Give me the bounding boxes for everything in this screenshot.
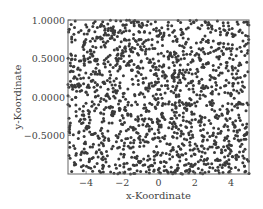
data-point: [128, 29, 131, 32]
data-point: [219, 63, 222, 66]
data-point: [167, 21, 170, 24]
data-point: [117, 57, 120, 60]
data-point: [158, 137, 161, 140]
data-point: [165, 152, 168, 155]
data-point: [130, 104, 133, 107]
data-point: [189, 46, 192, 49]
data-point: [177, 145, 180, 148]
data-point: [108, 165, 111, 168]
data-point: [72, 133, 75, 136]
data-point: [163, 165, 166, 168]
y-tick-label: 1.0000: [32, 15, 65, 26]
data-point: [141, 24, 144, 27]
data-point: [158, 131, 161, 134]
data-point: [235, 54, 238, 57]
data-point: [79, 59, 82, 62]
data-point: [155, 93, 158, 96]
data-point: [162, 102, 165, 105]
data-point: [97, 137, 100, 140]
data-point: [125, 29, 128, 32]
data-point: [187, 38, 190, 41]
data-point: [107, 60, 110, 63]
data-point: [175, 87, 178, 90]
data-point: [222, 28, 225, 31]
x-tick-label: −2: [115, 177, 129, 188]
data-point: [124, 106, 127, 109]
data-point: [163, 160, 166, 163]
data-point: [228, 57, 231, 60]
data-point: [143, 96, 146, 99]
data-point: [142, 77, 145, 80]
data-point: [170, 117, 173, 120]
data-point: [159, 154, 162, 157]
data-point: [227, 166, 230, 169]
data-point: [191, 73, 194, 76]
data-point: [219, 159, 222, 162]
data-point: [120, 40, 123, 43]
data-point: [152, 65, 155, 68]
data-point: [173, 29, 176, 32]
data-point: [91, 133, 94, 136]
data-point: [133, 156, 136, 159]
data-point: [146, 20, 149, 23]
data-point: [148, 48, 151, 51]
data-point: [132, 33, 135, 36]
data-point: [182, 69, 185, 72]
data-point: [233, 126, 236, 129]
data-point: [139, 141, 142, 144]
data-point: [245, 122, 248, 125]
data-point: [212, 77, 215, 80]
data-point: [208, 135, 211, 138]
y-axis-label: y-Koordinate: [12, 64, 23, 130]
data-point: [85, 90, 88, 93]
data-point: [107, 34, 110, 37]
data-point: [115, 77, 118, 80]
data-point: [179, 89, 182, 92]
data-point: [141, 123, 144, 126]
data-point: [130, 69, 133, 72]
data-point: [81, 150, 84, 153]
data-point: [139, 45, 142, 48]
data-point: [232, 89, 235, 92]
data-point: [190, 125, 193, 128]
data-point: [116, 35, 119, 38]
data-point: [123, 171, 126, 174]
data-point: [88, 115, 91, 118]
data-point: [76, 83, 79, 86]
data-point: [168, 158, 171, 161]
data-point: [108, 121, 111, 124]
data-point: [152, 138, 155, 141]
data-point: [211, 108, 214, 111]
data-point: [102, 112, 105, 115]
data-point: [132, 83, 135, 86]
data-point: [161, 70, 164, 73]
data-point: [187, 26, 190, 29]
data-point: [68, 146, 71, 149]
data-point: [119, 81, 122, 84]
data-point: [111, 121, 114, 124]
data-point: [119, 65, 122, 68]
data-point: [91, 55, 94, 58]
data-point: [178, 156, 181, 159]
data-point: [78, 108, 81, 111]
data-point: [156, 41, 159, 44]
data-point: [173, 131, 176, 134]
data-point: [184, 152, 187, 155]
data-point: [188, 168, 191, 171]
data-point: [193, 112, 196, 115]
data-point: [85, 102, 88, 105]
data-point: [237, 114, 240, 117]
data-point: [120, 31, 123, 34]
data-point: [107, 29, 110, 32]
data-point: [72, 33, 75, 36]
data-point: [71, 98, 74, 101]
data-point: [157, 68, 160, 71]
data-point: [171, 103, 174, 106]
data-point: [75, 90, 78, 93]
data-point: [182, 144, 185, 147]
data-point: [206, 138, 209, 141]
data-point: [226, 111, 229, 114]
data-point: [201, 145, 204, 148]
data-point: [82, 114, 85, 117]
data-point: [157, 34, 160, 37]
